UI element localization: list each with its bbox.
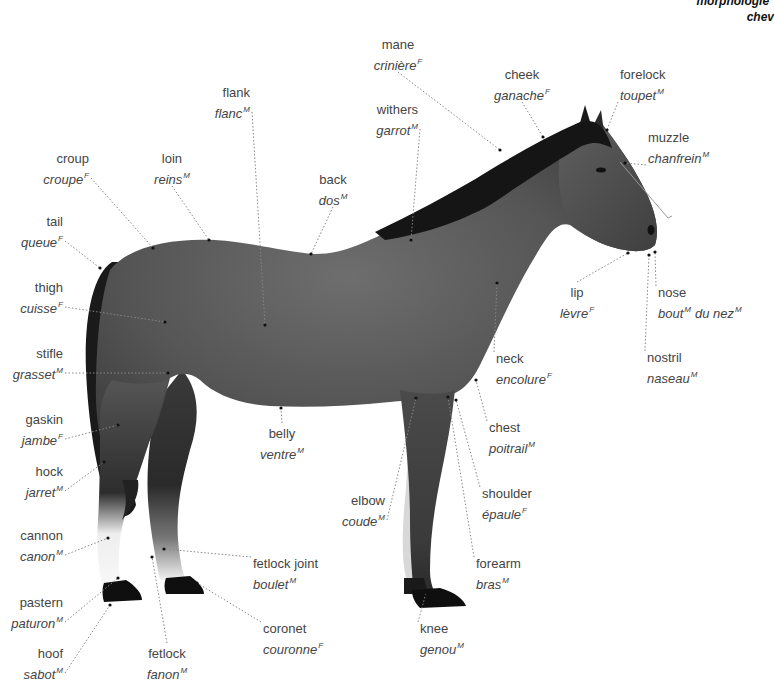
- gender-marker: M: [183, 171, 190, 180]
- label-french: paturonM: [11, 611, 63, 632]
- label-hock: hockjarretM: [26, 463, 63, 501]
- gender-marker: M: [180, 666, 187, 675]
- label-english: neck: [496, 350, 552, 367]
- label-english: lip: [560, 284, 594, 301]
- eye: [596, 168, 606, 173]
- label-english: cheek: [494, 66, 550, 83]
- label-french: flancM: [215, 101, 250, 122]
- label-french: genouM: [420, 637, 464, 658]
- label-french: cuisseF: [20, 296, 63, 317]
- gender-marker: M: [691, 370, 698, 379]
- label-english: forelock: [620, 66, 666, 83]
- label-forelock: forelocktoupetM: [620, 66, 666, 104]
- label-english: croup: [43, 150, 89, 167]
- label-flank: flankflancM: [215, 84, 250, 122]
- gender-marker: F: [58, 300, 63, 309]
- hoof-near-hind: [103, 580, 143, 602]
- label-english: loin: [154, 150, 190, 167]
- label-knee: kneegenouM: [420, 620, 464, 658]
- label-french: sabotM: [24, 662, 63, 683]
- label-hoof: hoofsabotM: [24, 645, 63, 683]
- label-english: thigh: [20, 279, 63, 296]
- hoof-far-hind: [165, 576, 205, 594]
- label-french: crinièreF: [374, 53, 423, 74]
- gender-marker: M: [289, 576, 296, 585]
- label-french: dosM: [319, 188, 348, 209]
- label-english: gaskin: [22, 411, 63, 428]
- gender-marker: F: [522, 506, 527, 515]
- label-croup: croupcroupeF: [43, 150, 89, 188]
- label-french: fanonM: [147, 662, 187, 683]
- gender-marker: M: [684, 305, 691, 314]
- label-english: fetlock: [147, 645, 187, 662]
- label-cannon: cannoncanonM: [20, 527, 63, 565]
- label-french: queueF: [21, 230, 63, 251]
- label-french: encolureF: [496, 367, 552, 388]
- gender-marker: F: [58, 234, 63, 243]
- label-english: belly: [260, 425, 304, 442]
- gender-marker: F: [547, 371, 552, 380]
- label-french: croupeF: [43, 167, 89, 188]
- gender-marker: M: [341, 192, 348, 201]
- label-french: chanfreinM: [648, 146, 709, 167]
- gender-marker: F: [84, 171, 89, 180]
- label-french: coudeM: [342, 509, 385, 530]
- diagram-title: morphologieF chev: [696, 0, 774, 25]
- label-english: flank: [215, 84, 250, 101]
- label-french: épauleF: [482, 502, 532, 523]
- label-mane: manecrinièreF: [374, 36, 423, 74]
- gender-marker: F: [417, 57, 422, 66]
- gender-marker: M: [56, 666, 63, 675]
- label-nose: noseboutMdu nezM: [658, 284, 742, 322]
- label-muzzle: muzzlechanfreinM: [648, 129, 709, 167]
- gender-marker: M: [528, 440, 535, 449]
- gender-marker: M: [378, 513, 385, 522]
- label-loin: loinreinsM: [154, 150, 190, 188]
- gender-marker: M: [735, 305, 742, 314]
- label-chest: chestpoitrailM: [489, 419, 535, 457]
- label-english: hoof: [24, 645, 63, 662]
- gender-marker: M: [411, 122, 418, 131]
- gender-marker: F: [58, 432, 63, 441]
- gender-marker: M: [56, 366, 63, 375]
- label-english: tail: [21, 213, 63, 230]
- gender-marker: M: [56, 484, 63, 493]
- label-english: muzzle: [648, 129, 709, 146]
- nostril-shape: [648, 225, 655, 235]
- gender-marker: M: [457, 641, 464, 650]
- gender-marker: M: [702, 150, 709, 159]
- label-english: mane: [374, 36, 423, 53]
- label-french: ventreM: [260, 442, 304, 463]
- label-french: jambeF: [22, 428, 63, 449]
- gender-marker: F: [589, 305, 594, 314]
- label-withers: withersgarrotM: [376, 101, 418, 139]
- label-english: coronet: [263, 620, 323, 637]
- gender-marker: M: [502, 576, 509, 585]
- label-french: garrotM: [376, 118, 418, 139]
- label-pastern: pasternpaturonM: [11, 594, 63, 632]
- gender-marker: F: [318, 641, 323, 650]
- label-french: boutMdu nezM: [658, 301, 742, 322]
- label-french: grassetM: [13, 362, 63, 383]
- label-french: ganacheF: [494, 83, 550, 104]
- label-back: backdosM: [319, 171, 348, 209]
- gender-marker: F: [545, 87, 550, 96]
- label-french: brasM: [476, 572, 521, 593]
- label-french: canonM: [20, 544, 63, 565]
- label-english: forearm: [476, 555, 521, 572]
- label-french: toupetM: [620, 83, 666, 104]
- label-stifle: stiflegrassetM: [13, 345, 63, 383]
- label-english: nose: [658, 284, 742, 301]
- label-english: elbow: [342, 492, 385, 509]
- gender-marker: M: [243, 105, 250, 114]
- gender-marker: M: [56, 615, 63, 624]
- label-french: lèvreF: [560, 301, 594, 322]
- label-elbow: elbowcoudeM: [342, 492, 385, 530]
- label-english: fetlock joint: [253, 555, 318, 572]
- title-line-1: morphologieF: [696, 0, 774, 9]
- label-forearm: forearmbrasM: [476, 555, 521, 593]
- label-french: couronneF: [263, 637, 323, 658]
- label-french: reinsM: [154, 167, 190, 188]
- label-tail: tailqueueF: [21, 213, 63, 251]
